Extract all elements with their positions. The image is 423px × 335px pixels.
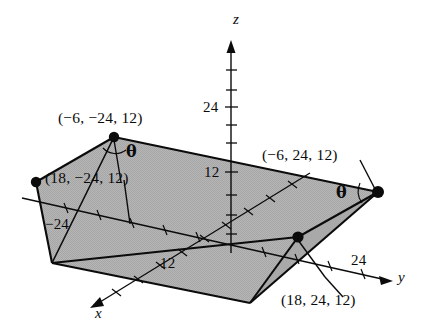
y-axis-label: y [398, 270, 405, 285]
y-tick-label-24: 24 [351, 253, 366, 268]
y-tick-label-neg24: −24 [45, 217, 69, 232]
x-axis-label: x [95, 306, 102, 321]
theta-label-right: θ [336, 185, 347, 201]
z-axis-label: z [233, 12, 239, 27]
dot-neg6-neg24-12 [109, 132, 119, 142]
x-tick-label-12: 12 [160, 256, 175, 271]
leader-point-neg6-24-12 [360, 160, 375, 189]
z-axis-arrow [227, 40, 236, 53]
dot-18-24-12 [292, 231, 303, 242]
z-tick-label-24: 24 [203, 100, 218, 115]
point-label-neg6-24-12: (−6, 24, 12) [262, 147, 338, 163]
point-label-18-24-12: (18, 24, 12) [281, 292, 356, 308]
point-label-neg6-neg24-12: (−6, −24, 12) [58, 110, 143, 126]
dot-18-neg24-12 [31, 177, 41, 187]
y-axis-arrow [379, 276, 393, 285]
figure-canvas: z y x 24 12 −24 24 12 (−6, −24, 12) (18,… [0, 0, 423, 335]
point-label-18-neg24-12: (18, −24, 12) [45, 170, 129, 186]
z-tick-label-12: 12 [204, 165, 219, 180]
dot-neg6-24-12 [372, 186, 384, 198]
theta-label-left: θ [126, 144, 137, 160]
